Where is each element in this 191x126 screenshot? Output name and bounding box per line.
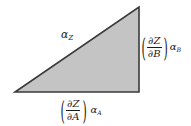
horizontal-leg-fraction: ∂Z ∂A [65, 99, 81, 122]
horizontal-leg-denominator: ∂A [66, 111, 80, 122]
vertical-leg-coefficient: αB [170, 42, 181, 53]
figure-canvas: αZ ( ∂Z ∂B ) αB ( ∂Z ∂A ) αA [0, 0, 191, 126]
vertical-leg-fraction: ∂Z ∂B [146, 36, 163, 59]
horizontal-leg-derivative-group: ( ∂Z ∂A ) αA [59, 99, 102, 122]
vertical-leg-derivative-group: ( ∂Z ∂B ) αB [140, 36, 181, 59]
hypotenuse-alpha-symbol: αZ [61, 29, 73, 42]
vertical-leg-close-paren: ) [163, 34, 167, 61]
vertical-leg-open-paren: ( [141, 34, 145, 61]
right-triangle-shape [15, 7, 139, 92]
vertical-leg-denominator: ∂B [147, 48, 162, 59]
horizontal-leg-coefficient-subscript: A [97, 109, 101, 116]
horizontal-leg-numerator: ∂Z [66, 99, 80, 110]
horizontal-leg-open-paren: ( [60, 97, 64, 124]
label-vertical-leg: ( ∂Z ∂B ) αB [140, 36, 181, 59]
horizontal-leg-close-paren: ) [82, 97, 86, 124]
vertical-leg-coefficient-subscript: B [176, 46, 181, 53]
label-horizontal-leg: ( ∂Z ∂A ) αA [59, 99, 102, 122]
horizontal-leg-coefficient: αA [91, 105, 102, 116]
hypotenuse-alpha-subscript: Z [68, 34, 73, 42]
vertical-leg-numerator: ∂Z [147, 36, 161, 47]
label-hypotenuse-alpha-z: αZ [61, 29, 73, 42]
